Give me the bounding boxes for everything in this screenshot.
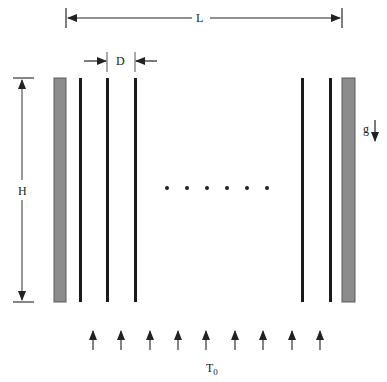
- plate-4: [301, 78, 304, 302]
- height-dimension: H: [13, 78, 34, 302]
- dot: [225, 186, 229, 190]
- height-label: H: [18, 184, 27, 198]
- dot: [185, 186, 189, 190]
- plate-1: [79, 78, 82, 302]
- dot: [265, 186, 269, 190]
- plates: [79, 78, 332, 302]
- length-label: L: [196, 11, 203, 25]
- dot: [205, 186, 209, 190]
- dot: [245, 186, 249, 190]
- diagram-canvas: L D H g: [0, 0, 387, 382]
- inflow-arrows: [93, 331, 320, 350]
- spacing-dimension: D: [84, 52, 157, 72]
- plate-3: [134, 78, 137, 302]
- dot: [165, 186, 169, 190]
- left-wall: [54, 78, 66, 302]
- gravity-indicator: g: [363, 120, 375, 141]
- right-wall: [342, 78, 355, 302]
- gravity-label: g: [363, 122, 369, 136]
- plate-2: [106, 78, 109, 302]
- plate-5: [329, 78, 332, 302]
- inlet-temperature-label: T0: [206, 361, 218, 377]
- ellipsis-dots: [165, 186, 269, 190]
- length-dimension: L: [66, 8, 342, 28]
- spacing-label: D: [116, 54, 125, 68]
